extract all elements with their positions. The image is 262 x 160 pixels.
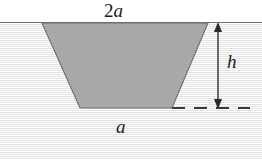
- trapezoid-channel-shape: [42, 23, 208, 108]
- diagram-vector-layer: [0, 0, 262, 160]
- depth-arrowhead-top-icon: [214, 22, 222, 32]
- top-width-number: 2: [104, 0, 114, 21]
- bottom-width-label: a: [116, 117, 126, 136]
- top-width-variable: a: [114, 0, 124, 21]
- top-width-label: 2a: [104, 1, 123, 20]
- depth-label: h: [227, 52, 237, 71]
- trapezoidal-channel-diagram: 2a a h: [0, 0, 262, 160]
